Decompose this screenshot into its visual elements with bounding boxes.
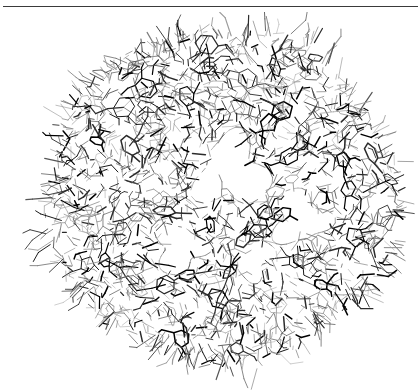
figure-panel: (a) bbox=[0, 0, 418, 391]
molecular-wireframe-image bbox=[0, 12, 418, 391]
top-horizontal-rule bbox=[3, 6, 418, 7]
